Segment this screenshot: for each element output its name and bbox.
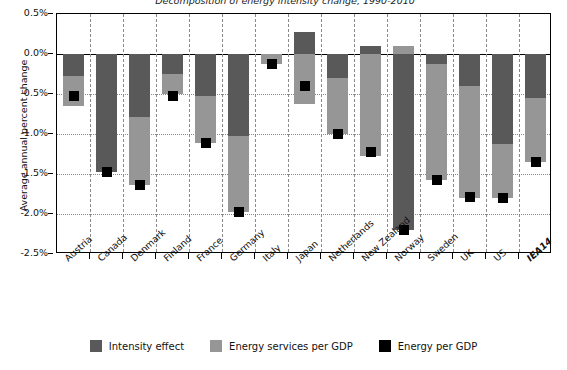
gridline-vertical <box>519 14 520 252</box>
gridline-vertical <box>222 14 223 252</box>
y-tick-label: 0.5% <box>0 8 48 18</box>
services-segment <box>195 96 215 142</box>
gridline-vertical <box>420 14 421 252</box>
gridline-vertical <box>321 14 322 252</box>
energy-per-gdp-marker <box>300 81 310 91</box>
plot-area <box>56 13 551 253</box>
y-tick-label: -0.5% <box>0 88 48 98</box>
y-tick-label: -2.0% <box>0 208 48 218</box>
energy-per-gdp-marker <box>498 193 508 203</box>
gridline-vertical <box>486 14 487 252</box>
energy-per-gdp-marker <box>234 207 244 217</box>
intensity-segment <box>459 54 479 86</box>
energy-per-gdp-marker <box>366 147 376 157</box>
y-tick-mark <box>48 93 53 94</box>
y-tick-label: -1.0% <box>0 128 48 138</box>
gridline-vertical <box>156 14 157 252</box>
intensity-segment <box>525 54 545 98</box>
intensity-segment <box>393 54 413 230</box>
legend-label: Intensity effect <box>109 341 184 352</box>
gridline-vertical <box>288 14 289 252</box>
gridline-vertical <box>453 14 454 252</box>
y-tick-mark <box>48 133 53 134</box>
intensity-segment <box>195 54 215 96</box>
services-segment <box>327 78 347 134</box>
energy-per-gdp-marker <box>267 59 277 69</box>
y-tick-mark <box>48 213 53 214</box>
services-segment <box>525 98 545 162</box>
gridline-vertical <box>90 14 91 252</box>
intensity-segment <box>426 54 446 64</box>
y-tick-mark <box>48 13 53 14</box>
y-tick-label: -1.5% <box>0 168 48 178</box>
x-axis-labels: AustriaCanadaDenmarkFinlandFranceGermany… <box>56 256 566 318</box>
energy-per-gdp-marker <box>531 157 541 167</box>
y-tick-label: 0.0% <box>0 48 48 58</box>
gridline-horizontal <box>57 214 550 215</box>
legend-label: Energy services per GDP <box>229 341 353 352</box>
services-segment <box>129 117 149 185</box>
plot-inner <box>57 14 550 252</box>
services-segment <box>426 64 446 180</box>
services-segment <box>228 136 248 212</box>
energy-per-gdp-marker <box>69 91 79 101</box>
energy-swatch <box>379 340 391 352</box>
y-tick-label: -2.5% <box>0 248 48 258</box>
energy-per-gdp-marker <box>432 175 442 185</box>
services-segment <box>294 54 314 104</box>
services-segment <box>393 46 413 54</box>
legend-item: Energy services per GDP <box>210 340 353 352</box>
gridline-vertical <box>189 14 190 252</box>
legend-label: Energy per GDP <box>398 341 477 352</box>
intensity-swatch <box>90 340 102 352</box>
intensity-segment <box>327 54 347 78</box>
intensity-segment <box>63 54 83 76</box>
services-segment <box>492 144 512 198</box>
energy-per-gdp-marker <box>102 167 112 177</box>
intensity-segment <box>129 54 149 117</box>
energy-per-gdp-marker <box>135 180 145 190</box>
energy-per-gdp-marker <box>465 192 475 202</box>
intensity-segment <box>162 54 182 74</box>
energy-per-gdp-marker <box>201 138 211 148</box>
services-swatch <box>210 340 222 352</box>
gridline-vertical <box>387 14 388 252</box>
gridline-vertical <box>354 14 355 252</box>
y-axis-ticks: 0.5%0.0%-0.5%-1.0%-1.5%-2.0%-2.5% <box>0 13 56 253</box>
legend-item: Intensity effect <box>90 340 184 352</box>
y-tick-mark <box>48 53 53 54</box>
gridline-vertical <box>255 14 256 252</box>
gridline-vertical <box>123 14 124 252</box>
intensity-segment <box>96 54 116 172</box>
chart-title: Decomposition of energy intensity change… <box>70 0 500 6</box>
intensity-segment <box>492 54 512 144</box>
chart-legend: Intensity effectEnergy services per GDPE… <box>0 336 567 356</box>
legend-item: Energy per GDP <box>379 340 477 352</box>
energy-per-gdp-marker <box>333 129 343 139</box>
intensity-segment <box>360 46 380 54</box>
intensity-segment <box>228 54 248 136</box>
energy-per-gdp-marker <box>168 91 178 101</box>
services-segment <box>459 86 479 198</box>
y-tick-mark <box>48 173 53 174</box>
intensity-segment <box>294 32 314 54</box>
chart-figure: Decomposition of energy intensity change… <box>0 0 567 370</box>
services-segment <box>360 54 380 156</box>
y-tick-mark <box>48 253 53 254</box>
